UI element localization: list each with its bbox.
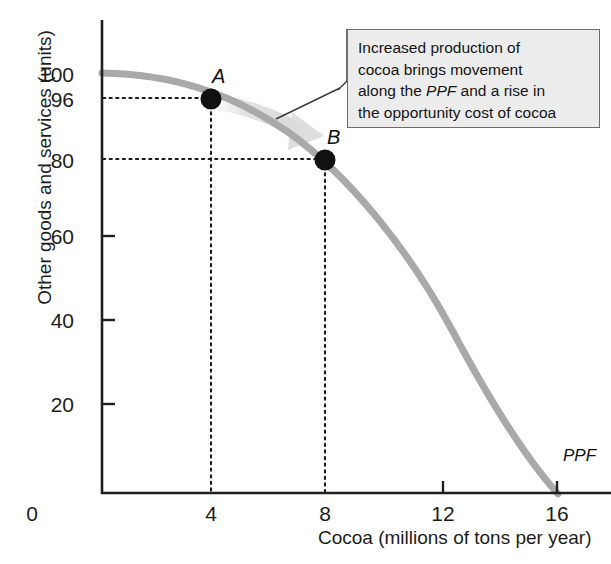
data-point-a-label: A (212, 66, 225, 86)
callout-line-1: Increased production of (358, 39, 520, 56)
data-point-b-label: B (327, 127, 340, 147)
x-tick-label-8: 8 (302, 503, 348, 524)
callout-line-3-prefix: along the (358, 82, 426, 99)
x-tick-label-12: 12 (420, 503, 466, 524)
y-tick-label-20: 20 (12, 394, 74, 415)
callout-leader-segment (276, 88, 340, 119)
callout-leader-line (338, 29, 347, 90)
annotation-callout-text: Increased production ofcocoa brings move… (358, 37, 590, 123)
callout-ppf-emphasis: PPF (426, 82, 456, 99)
data-point-a (201, 89, 222, 110)
x-axis-title: Cocoa (millions of tons per year) (318, 528, 592, 547)
ppf-chart-figure: Other goods and services (units) 100 96 … (0, 0, 611, 564)
data-point-b (315, 150, 336, 171)
annotation-callout: Increased production ofcocoa brings move… (347, 29, 600, 128)
callout-line-3-suffix: and a rise in (456, 82, 545, 99)
ppf-curve-label: PPF (563, 447, 596, 464)
y-tick-label-80: 80 (12, 150, 74, 171)
y-tick-label-40: 40 (12, 310, 74, 331)
y-tick-label-96: 96 (12, 89, 74, 110)
x-tick-label-0: 0 (9, 503, 55, 524)
y-tick-label-100: 100 (12, 64, 74, 85)
x-tick-label-16: 16 (534, 503, 580, 524)
x-tick-label-4: 4 (188, 503, 234, 524)
y-tick-label-60: 60 (12, 226, 74, 247)
callout-line-4: the opportunity cost of cocoa (358, 104, 556, 121)
callout-line-2: cocoa brings movement (358, 61, 523, 78)
